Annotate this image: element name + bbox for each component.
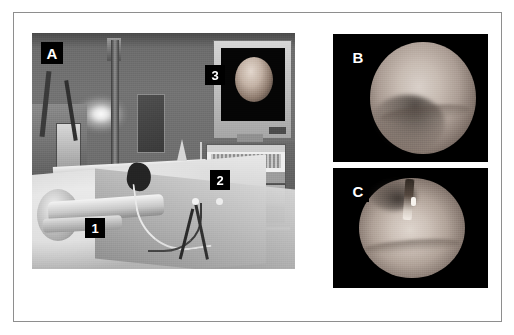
left-rack-control-box (56, 123, 82, 172)
panel-a-operating-room-photo: A 1 2 3 (32, 33, 295, 269)
instrument-tip-glint-c (411, 197, 416, 206)
endoscope-shadow-b (370, 95, 444, 151)
panel-label-a: A (41, 42, 63, 64)
panel-a-scene (32, 33, 295, 269)
panel-label-b: B (347, 46, 369, 68)
panel-label-c: C (347, 180, 369, 202)
callout-3: 3 (205, 65, 225, 85)
figure-root: A 1 2 3 B C (0, 0, 514, 335)
panel-b-endoscopic-image: B (333, 34, 488, 162)
monitor-brand-plate (269, 127, 286, 134)
callout-1: 1 (85, 218, 105, 238)
drape-peak (177, 139, 187, 161)
monitor-endoscopic-image (235, 57, 273, 103)
wall-mounted-display (137, 94, 165, 153)
instrument-pole (111, 40, 119, 172)
monitor-screen (221, 48, 285, 122)
panel-c-endoscopic-image: C (333, 168, 488, 288)
crt-monitor (213, 40, 291, 139)
callout-2: 2 (210, 170, 230, 190)
